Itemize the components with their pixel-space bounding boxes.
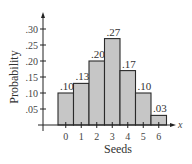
bar-5 bbox=[136, 93, 152, 125]
x-tick-label: 6 bbox=[156, 131, 161, 142]
y-axis bbox=[41, 12, 45, 131]
data-label-3: .27 bbox=[106, 26, 120, 38]
y-tick-label: .05 bbox=[26, 104, 39, 115]
x-tick-label: 4 bbox=[125, 131, 130, 142]
probability-histogram: .10.13.20.27.17.10.03 .05.10.15.20.25.30… bbox=[0, 0, 192, 164]
bar-2 bbox=[89, 61, 105, 125]
x-axis-arrow-icon bbox=[170, 123, 176, 127]
data-label-0: .10 bbox=[60, 80, 74, 92]
data-label-4: .17 bbox=[122, 58, 136, 70]
y-tick-label: .15 bbox=[26, 72, 39, 83]
x-axis-title: Seeds bbox=[104, 142, 132, 156]
x-axis-variable: x bbox=[177, 119, 183, 130]
x-tick-label: 0 bbox=[63, 131, 68, 142]
x-tick-label: 3 bbox=[110, 131, 115, 142]
bar-0 bbox=[58, 93, 74, 125]
data-label-2: .20 bbox=[91, 48, 105, 60]
x-tick-label: 2 bbox=[94, 131, 99, 142]
y-axis-arrow-icon bbox=[41, 12, 45, 18]
x-tick-label: 5 bbox=[141, 131, 146, 142]
y-tick-label: .20 bbox=[26, 56, 39, 67]
data-label-1: .13 bbox=[75, 70, 89, 82]
y-tick-label: .30 bbox=[26, 24, 39, 35]
data-label-5: .10 bbox=[137, 80, 151, 92]
y-tick-label: .10 bbox=[26, 88, 39, 99]
x-tick-label: 1 bbox=[79, 131, 84, 142]
data-label-6: .03 bbox=[153, 102, 167, 114]
bar-3 bbox=[105, 39, 121, 125]
y-axis-title: Probability bbox=[7, 50, 21, 103]
y-tick-label: .25 bbox=[26, 40, 39, 51]
bar-1 bbox=[74, 83, 90, 125]
bar-4 bbox=[120, 71, 136, 125]
